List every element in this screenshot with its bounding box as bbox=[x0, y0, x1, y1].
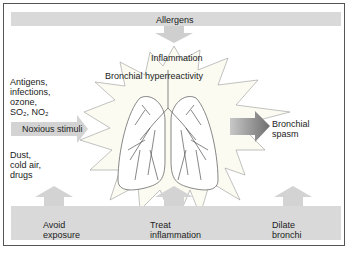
allergens-label: Allergens bbox=[156, 15, 194, 25]
noxious-stimuli-label: Noxious stimuli bbox=[22, 124, 83, 134]
treat-inflammation-label: Treat inflammation bbox=[150, 220, 201, 240]
dilate-bronchi-label: Dilate bronchi bbox=[272, 220, 302, 240]
dust-text: Dust, cold air, drugs bbox=[10, 150, 41, 180]
inflammation-label: Inflammation bbox=[151, 53, 203, 63]
avoid-exposure-label: Avoid exposure bbox=[43, 220, 80, 240]
avoid-up-arrow bbox=[35, 186, 73, 206]
antigens-text: Antigens, infections, ozone, bbox=[10, 77, 51, 107]
bronchial-spasm-label: Bronchial spasm bbox=[272, 119, 310, 139]
so2-no2-text: SO₂, NO₂ bbox=[10, 107, 49, 117]
allergens-down-arrow bbox=[155, 26, 193, 43]
hyperreactivity-label: Bronchial hyperreactivity bbox=[105, 71, 203, 81]
dilate-up-arrow bbox=[274, 186, 312, 206]
